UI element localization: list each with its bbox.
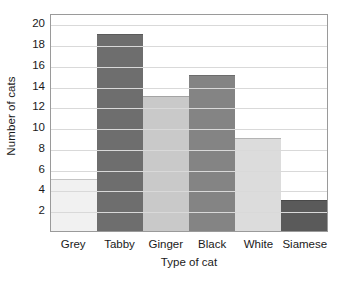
x-axis-tick-labels: GreyTabbyGingerBlackWhiteSiamese	[50, 234, 328, 254]
bar[interactable]	[281, 200, 327, 231]
x-axis-tick-label: Grey	[50, 234, 96, 254]
y-axis-tick-label: 10	[32, 122, 45, 134]
y-axis-tick-label: 14	[32, 81, 45, 93]
bar[interactable]	[97, 34, 143, 231]
y-axis-tick-label: 18	[32, 39, 45, 51]
y-axis-tick-labels: 2468101214161820	[22, 14, 48, 232]
y-axis-tick-label: 2	[39, 205, 45, 217]
y-axis-tick-label: 8	[39, 143, 45, 155]
bar[interactable]	[51, 179, 97, 231]
x-axis-title: Type of cat	[50, 256, 328, 268]
y-axis-tick-label: 6	[39, 164, 45, 176]
bar-slot	[97, 15, 143, 231]
bar-slot	[189, 15, 235, 231]
bar-slot	[143, 15, 189, 231]
bar[interactable]	[143, 96, 189, 231]
y-axis-tick-label: 4	[39, 185, 45, 197]
y-axis-tick-label: 20	[32, 19, 45, 31]
bar-slot	[235, 15, 281, 231]
y-axis-tick-label: 12	[32, 102, 45, 114]
y-axis-tick-label: 16	[32, 60, 45, 72]
bar-slot	[51, 15, 97, 231]
x-axis-tick-label: Black	[189, 234, 235, 254]
x-axis-title-label: Type of cat	[161, 256, 217, 268]
y-axis-title: Number of cats	[0, 0, 22, 232]
y-axis-title-label: Number of cats	[5, 76, 17, 155]
x-axis-tick-label: Ginger	[143, 234, 189, 254]
plot-area	[50, 14, 328, 232]
x-axis-tick-label: Siamese	[282, 234, 328, 254]
bar[interactable]	[235, 138, 281, 231]
bars-layer	[51, 15, 327, 231]
bar-chart: Number of cats 2468101214161820 GreyTabb…	[0, 0, 342, 284]
x-axis-tick-label: Tabby	[96, 234, 142, 254]
x-axis-tick-label: White	[235, 234, 281, 254]
bar-slot	[281, 15, 327, 231]
bar[interactable]	[189, 75, 235, 231]
